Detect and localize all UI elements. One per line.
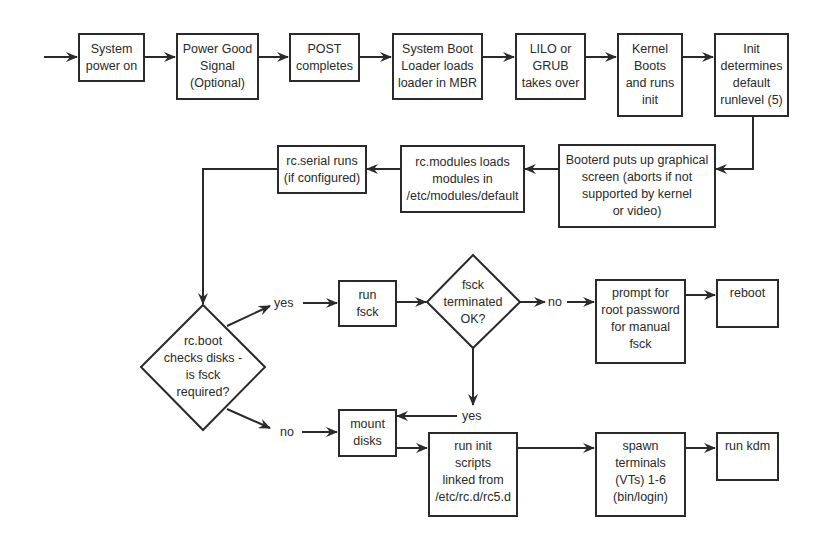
node-system-boot-loader: System Boot Loader loads loader in MBR <box>392 33 483 100</box>
arrow-init-booterd <box>716 116 753 169</box>
node-lilo-grub: LILO or GRUB takes over <box>515 33 586 100</box>
decision-rcboot-text: rc.boot checks disks - is fsck required? <box>148 330 258 404</box>
decision-fsckok-text: fsck terminated OK? <box>433 276 513 328</box>
node-reboot: reboot <box>716 279 779 328</box>
label-fsckok-yes: yes <box>462 409 481 423</box>
node-rc-serial: rc.serial runs (if configured) <box>277 145 367 194</box>
node-run-kdm: run kdm <box>716 432 779 481</box>
node-rc-modules: rc.modules loads modules in /etc/modules… <box>400 145 525 213</box>
node-spawn-terminals: spawn terminals (VTs) 1-6 (bin/login) <box>595 432 686 517</box>
arrow-rcserial-rcboot <box>203 169 277 304</box>
label-rcboot-no: no <box>280 425 294 439</box>
label-rcboot-yes: yes <box>274 296 293 310</box>
node-kernel-boots: Kernel Boots and runs init <box>617 33 683 117</box>
node-mount-disks: mount disks <box>338 409 397 457</box>
node-system-power-on: System power on <box>78 33 145 82</box>
node-booterd: Booterd puts up graphical screen (aborts… <box>558 144 716 228</box>
node-post-completes: POST completes <box>289 33 360 82</box>
arrow-rcboot-yes <box>227 306 270 326</box>
label-fsckok-no: no <box>548 295 562 309</box>
arrow-rcboot-no <box>227 409 270 428</box>
node-run-init-scripts: run init scripts linked from /etc/rc.d/r… <box>428 432 518 517</box>
node-run-fsck: run fsck <box>338 280 397 327</box>
node-prompt-root-password: prompt for root password for manual fsck <box>595 279 686 364</box>
boot-flowchart: System power on Power Good Signal (Optio… <box>0 0 823 554</box>
node-power-good-signal: Power Good Signal (Optional) <box>176 33 259 100</box>
node-init-runlevel: Init determines default runlevel (5) <box>714 33 789 117</box>
